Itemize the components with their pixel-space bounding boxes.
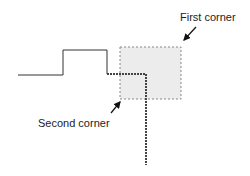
first-corner-label: First corner	[180, 11, 236, 23]
polyline-unselected[interactable]	[18, 50, 107, 75]
first-corner-arrow-icon	[184, 27, 196, 40]
second-corner-arrow-icon	[111, 102, 120, 113]
second-corner-label: Second corner	[38, 117, 110, 129]
diagram-canvas	[0, 0, 250, 176]
